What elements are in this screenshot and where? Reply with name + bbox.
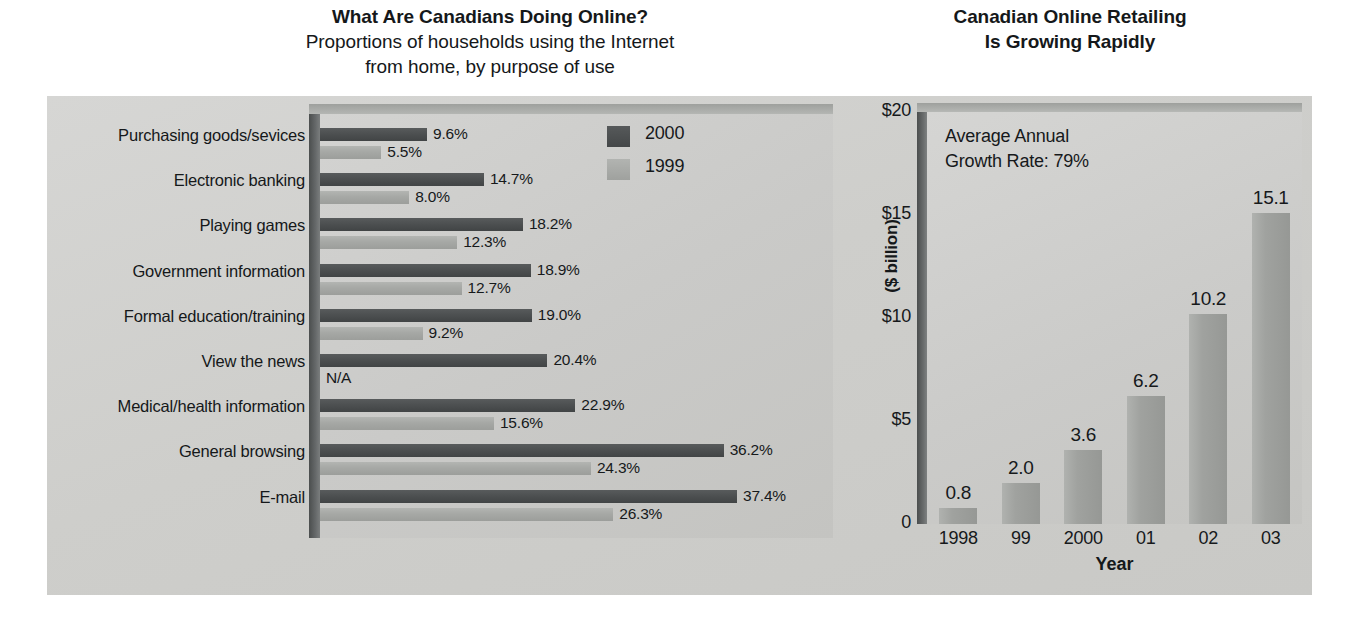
right-x-tick-label: 1998 [928, 528, 988, 549]
right-bar-value-label: 2.0 [991, 457, 1051, 479]
left-bar-value-2000: 20.4% [553, 351, 596, 369]
left-bar-1999 [320, 508, 613, 521]
left-category-label: View the news [47, 352, 305, 371]
left-bar-2000 [320, 218, 523, 231]
left-chart-subtitle-line1: Proportions of households using the Inte… [180, 29, 800, 54]
left-bar-1999 [320, 327, 423, 340]
left-bar-value-2000: 19.0% [538, 306, 581, 324]
right-y-tick-label: $10 [849, 306, 911, 327]
left-bar-value-1999: 8.0% [415, 188, 450, 206]
left-chart-title: What Are Canadians Doing Online? [180, 4, 800, 29]
right-chart-x-axis-title: Year [927, 554, 1302, 575]
right-chart-title-block: Canadian Online Retailing Is Growing Rap… [860, 4, 1280, 54]
right-bar-group: 0.82.03.66.210.215.1 [927, 112, 1302, 524]
left-bar-2000 [320, 354, 547, 367]
left-category-label: Playing games [47, 216, 305, 235]
left-category-label: Purchasing goods/sevices [47, 126, 305, 145]
right-y-tick-label: $15 [849, 203, 911, 224]
legend-item-2000: 2000 [607, 124, 777, 157]
legend-label-1999: 1999 [645, 156, 684, 177]
left-bar-value-1999: 12.7% [468, 279, 511, 297]
left-bar-2000 [320, 264, 531, 277]
right-x-tick-label: 02 [1178, 528, 1238, 549]
left-plot-3d-left-edge [309, 104, 320, 538]
left-bar-chart: Purchasing goods/sevicesElectronic banki… [47, 96, 837, 595]
left-bar-value-2000: 18.2% [529, 215, 572, 233]
right-chart-title-line1: Canadian Online Retailing [860, 4, 1280, 29]
right-bar [1064, 450, 1102, 524]
left-bar-value-1999-na: N/A [326, 369, 351, 387]
right-y-tick-label: $5 [849, 409, 911, 430]
right-plot-3d-left-edge [917, 103, 927, 524]
right-chart-y-ticks: 0$5$10$15$20 [843, 96, 911, 536]
right-bar-chart: ($ billion) 0$5$10$15$20 Average Annual … [837, 96, 1312, 595]
left-plot-3d-top-edge [309, 104, 833, 114]
left-bar-2000 [320, 444, 724, 457]
left-bar-value-2000: 14.7% [490, 170, 533, 188]
left-bar-2000 [320, 173, 484, 186]
left-bar-2000 [320, 128, 427, 141]
left-bar-value-2000: 18.9% [537, 261, 580, 279]
right-bar [1127, 396, 1165, 524]
left-category-label: General browsing [47, 442, 305, 461]
left-category-label: Government information [47, 262, 305, 281]
left-bar-1999 [320, 462, 591, 475]
left-category-label: Formal education/training [47, 307, 305, 326]
left-bar-value-1999: 24.3% [597, 459, 640, 477]
left-bar-1999 [320, 146, 381, 159]
right-bar [1252, 213, 1290, 524]
left-bar-2000 [320, 490, 737, 503]
left-chart-legend: 2000 1999 [607, 124, 777, 190]
left-bar-value-2000: 22.9% [581, 396, 624, 414]
right-x-tick-label: 99 [991, 528, 1051, 549]
left-chart-title-block: What Are Canadians Doing Online? Proport… [180, 4, 800, 79]
left-category-label: E-mail [47, 488, 305, 507]
left-bar-value-2000: 9.6% [433, 125, 468, 143]
left-category-labels: Purchasing goods/sevicesElectronic banki… [47, 114, 305, 538]
legend-swatch-1999-icon [607, 159, 630, 180]
titles-area: What Are Canadians Doing Online? Proport… [0, 0, 1355, 95]
left-chart-subtitle-line2: from home, by purpose of use [180, 54, 800, 79]
left-category-label: Medical/health information [47, 397, 305, 416]
right-plot-3d-top-edge [917, 103, 1302, 112]
right-bar-value-label: 3.6 [1053, 424, 1113, 446]
right-y-tick-label: 0 [849, 512, 911, 533]
legend-swatch-2000-icon [607, 126, 630, 147]
right-bar [1002, 483, 1040, 524]
left-bar-2000 [320, 309, 532, 322]
left-bar-2000 [320, 399, 575, 412]
left-category-label: Electronic banking [47, 171, 305, 190]
left-bar-1999 [320, 236, 457, 249]
left-bar-1999 [320, 191, 409, 204]
left-bar-value-2000: 36.2% [730, 441, 773, 459]
right-bar-value-label: 6.2 [1116, 370, 1176, 392]
right-bar [1189, 314, 1227, 524]
right-bar [939, 508, 977, 524]
right-bar-value-label: 10.2 [1178, 288, 1238, 310]
right-bar-value-label: 0.8 [928, 482, 988, 504]
right-x-tick-label: 03 [1241, 528, 1301, 549]
legend-label-2000: 2000 [645, 123, 684, 144]
left-bar-1999 [320, 417, 494, 430]
legend-item-1999: 1999 [607, 157, 777, 190]
left-bar-value-1999: 12.3% [463, 233, 506, 251]
left-bar-value-1999: 15.6% [500, 414, 543, 432]
right-x-tick-label: 01 [1116, 528, 1176, 549]
left-bar-value-1999: 5.5% [387, 143, 422, 161]
left-bar-value-1999: 26.3% [619, 505, 662, 523]
right-chart-title-line2: Is Growing Rapidly [860, 29, 1280, 54]
left-bar-value-2000: 37.4% [743, 487, 786, 505]
left-bar-1999 [320, 282, 462, 295]
right-bar-value-label: 15.1 [1241, 187, 1301, 209]
right-x-tick-label: 2000 [1053, 528, 1113, 549]
right-y-tick-label: $20 [849, 100, 911, 121]
left-bar-value-1999: 9.2% [429, 324, 464, 342]
